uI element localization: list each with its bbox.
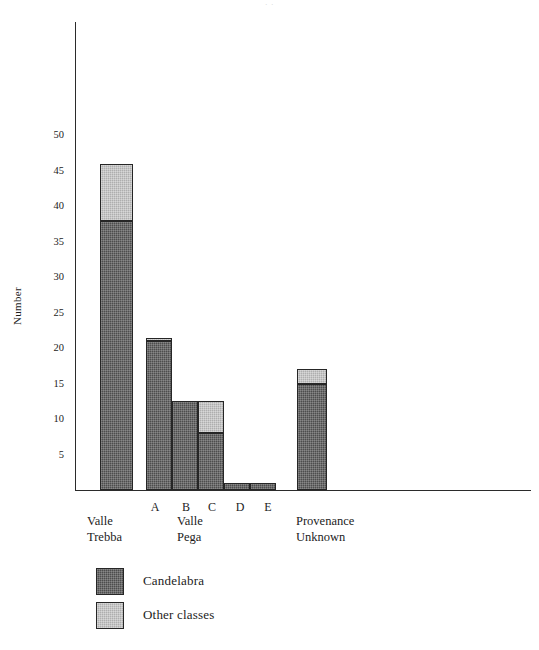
legend-item-candelabra[interactable]: Candelabra bbox=[96, 568, 356, 602]
bar-segment-candelabra bbox=[100, 221, 133, 490]
bar-segment-candelabra bbox=[224, 483, 250, 490]
x-sublabel-b: B bbox=[173, 500, 199, 515]
y-tick-label-35: 35 bbox=[30, 237, 64, 247]
bar-segment-other-classes bbox=[198, 401, 224, 433]
y-tick-label-50: 50 bbox=[30, 130, 64, 140]
y-tick-label-20: 20 bbox=[30, 343, 64, 353]
bar-segment-other-classes bbox=[100, 164, 133, 221]
y-tick-label-5: 5 bbox=[30, 450, 64, 460]
x-sublabel-a: A bbox=[142, 500, 168, 515]
bar-valle-trebba[interactable] bbox=[100, 164, 133, 490]
legend-item-other-classes[interactable]: Other classes bbox=[96, 602, 356, 636]
x-group-label-valle-pega: VallePega bbox=[177, 514, 297, 545]
bar-segment-candelabra bbox=[198, 433, 224, 490]
bar-segment-other-classes bbox=[146, 338, 172, 342]
x-sublabel-c: C bbox=[199, 500, 225, 515]
group-label-line-1: Provenance bbox=[296, 514, 416, 530]
legend-label: Candelabra bbox=[143, 573, 204, 589]
plot-area bbox=[75, 22, 531, 490]
bar-segment-other-classes bbox=[297, 369, 327, 383]
group-label-line-2: Unknown bbox=[296, 530, 416, 546]
legend-label: Other classes bbox=[143, 607, 215, 623]
x-sublabel-e: E bbox=[255, 500, 281, 515]
bar-pega-b[interactable] bbox=[172, 401, 198, 490]
group-label-line-2: Pega bbox=[177, 530, 297, 546]
y-tick-label-25: 25 bbox=[30, 308, 64, 318]
y-axis-title: Number bbox=[11, 271, 23, 341]
bar-pega-a[interactable] bbox=[146, 338, 172, 490]
bar-segment-candelabra bbox=[146, 341, 172, 490]
y-tick-label-10: 10 bbox=[30, 414, 64, 424]
group-label-line-1: Valle bbox=[177, 514, 297, 530]
bar-chart-figure: · · Number 5045403530252015105 ABCDE Val… bbox=[0, 0, 539, 650]
y-tick-label-45: 45 bbox=[30, 166, 64, 176]
bar-pega-e[interactable] bbox=[250, 483, 276, 490]
y-tick-label-30: 30 bbox=[30, 272, 64, 282]
chart-legend: CandelabraOther classes bbox=[96, 568, 356, 636]
x-axis-line bbox=[75, 490, 531, 491]
bar-provenance-unknown[interactable] bbox=[297, 369, 327, 490]
bar-pega-d[interactable] bbox=[224, 483, 250, 490]
legend-swatch-light bbox=[96, 602, 124, 629]
bar-segment-candelabra bbox=[250, 483, 276, 490]
bar-segment-candelabra bbox=[297, 384, 327, 490]
y-tick-label-40: 40 bbox=[30, 201, 64, 211]
legend-swatch-dark bbox=[96, 568, 124, 595]
cropped-title-remnant: · · bbox=[0, 0, 539, 8]
bar-segment-candelabra bbox=[172, 401, 198, 490]
y-tick-label-15: 15 bbox=[30, 379, 64, 389]
x-group-label-provenance-unknown: ProvenanceUnknown bbox=[296, 514, 416, 545]
bar-pega-c[interactable] bbox=[198, 401, 224, 490]
x-sublabel-d: D bbox=[227, 500, 253, 515]
